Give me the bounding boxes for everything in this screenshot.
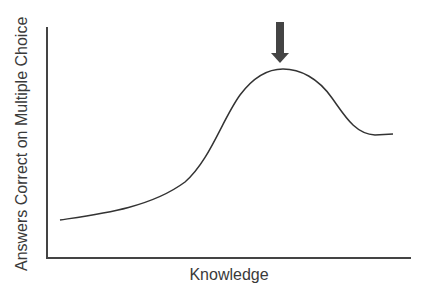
arrow-down-icon xyxy=(271,22,289,63)
chart-canvas: Answers Correct on Multiple Choice Knowl… xyxy=(0,0,434,295)
chart-plot xyxy=(0,0,434,295)
x-axis-label: Knowledge xyxy=(47,266,411,284)
y-axis-label: Answers Correct on Multiple Choice xyxy=(13,31,35,271)
performance-curve xyxy=(60,69,393,220)
